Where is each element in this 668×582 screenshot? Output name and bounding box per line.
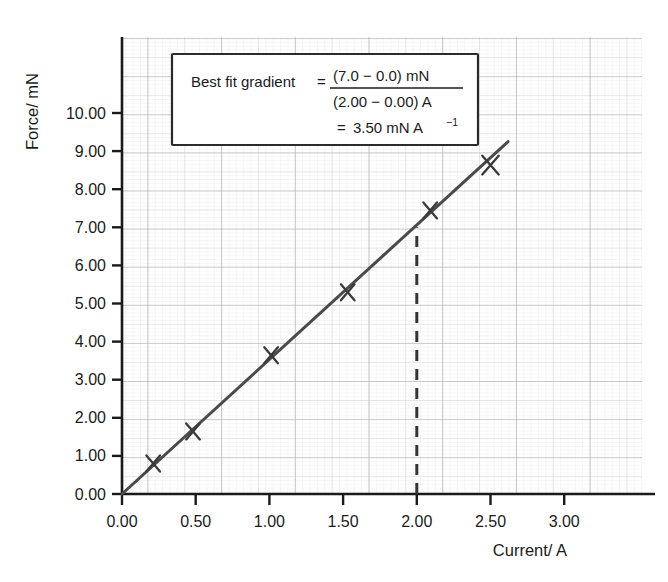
x-axis-tick-labels: 0.00 0.50 1.00 1.50 2.00 2.50 3.00: [106, 513, 579, 530]
x-axis-ticks: [122, 494, 564, 505]
annotation-box-border: [172, 54, 478, 145]
y-tick-label: 3.00: [75, 371, 106, 388]
y-tick-label: 7.00: [75, 219, 106, 236]
y-tick-label: 2.00: [75, 409, 106, 426]
x-tick-label: 1.00: [254, 513, 285, 530]
y-tick-label: 9.00: [75, 143, 106, 160]
y-tick-label: 6.00: [75, 257, 106, 274]
y-axis-tick-labels: 0.00 1.00 2.00 3.00 4.00 5.00 6.00 7.00 …: [66, 105, 106, 503]
y-tick-label: 0.00: [75, 486, 106, 503]
annotation-result-exponent: −1: [446, 116, 458, 128]
annotation-label: Best fit gradient: [191, 73, 296, 90]
x-tick-label: 2.50: [475, 513, 506, 530]
y-tick-label: 8.00: [75, 181, 106, 198]
chart-figure: 0.00 1.00 2.00 3.00 4.00 5.00 6.00 7.00 …: [0, 0, 668, 582]
annotation-denominator: (2.00 − 0.00) A: [333, 93, 432, 110]
y-tick-label: 1.00: [75, 447, 106, 464]
x-axis-title: Current/ A: [493, 541, 567, 559]
y-tick-label: 5.00: [75, 295, 106, 312]
annotation-numerator: (7.0 − 0.0) mN: [333, 67, 429, 84]
y-axis-ticks: [112, 113, 122, 494]
x-tick-label: 3.00: [549, 513, 580, 530]
x-tick-label: 0.00: [106, 513, 137, 530]
force-current-graph: 0.00 1.00 2.00 3.00 4.00 5.00 6.00 7.00 …: [0, 0, 668, 582]
y-axis-title: Force/ mN: [23, 73, 41, 150]
annotation-result-value: 3.50 mN A: [353, 119, 423, 136]
annotation-equals: =: [317, 73, 326, 90]
annotation-result-equals: =: [337, 119, 346, 136]
y-tick-label: 4.00: [75, 333, 106, 350]
y-tick-label: 10.00: [66, 105, 106, 122]
x-tick-label: 2.00: [401, 513, 432, 530]
gradient-annotation-box: Best fit gradient = (7.0 − 0.0) mN (2.00…: [172, 54, 478, 145]
x-tick-label: 1.50: [328, 513, 359, 530]
x-tick-label: 0.50: [180, 513, 211, 530]
